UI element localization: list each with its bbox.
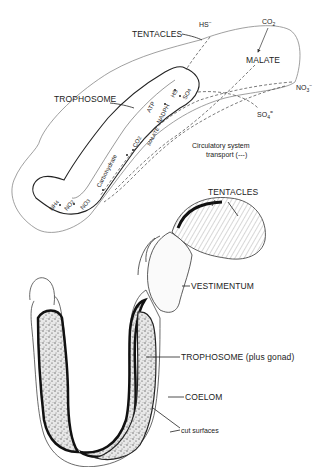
label-nadph: NADPH — [156, 103, 171, 124]
trunk-left-stub — [30, 278, 55, 305]
label-malate-top: MALATE — [246, 55, 280, 65]
circulatory-path-so4 — [198, 92, 258, 108]
label-so4-right: SO4= — [257, 109, 273, 120]
tentacles-leader-line — [182, 34, 202, 40]
circulatory-path-no3 — [100, 82, 292, 196]
label-no2: NO2 — [63, 199, 75, 212]
label-trophosome-top: TROPHOSOME — [54, 94, 117, 104]
trophosome-right-core — [96, 312, 156, 460]
label-circulatory-line2: transport (---) — [206, 151, 247, 159]
label-tentacles-bottom: TENTACLES — [208, 187, 259, 197]
svg-text:NO3−: NO3− — [296, 82, 312, 93]
label-trophosome-gonad: TROPHOSOME (plus gonad) — [181, 352, 294, 362]
tubeworm-anatomy-figure: TENTACLES HS− CO2 MALATE NO3− SO4= TROPH… — [0, 0, 326, 467]
cut-surfaces-leader — [153, 408, 180, 432]
svg-text:HS−: HS− — [199, 19, 212, 28]
co2-to-malate-arrow — [258, 28, 268, 52]
svg-text:SO4=: SO4= — [257, 109, 273, 120]
svg-text:SO4: SO4 — [182, 87, 193, 100]
label-hs-top: HS− — [199, 19, 212, 28]
label-malate-inner: MALATE — [146, 126, 161, 147]
label-nh4: NH4 — [48, 199, 60, 212]
label-tentacles-top: TENTACLES — [132, 29, 183, 39]
svg-text:NO2: NO2 — [63, 199, 75, 212]
vestimentum-body — [148, 232, 193, 312]
label-circulatory-line1: Circulatory system — [192, 142, 250, 150]
label-cut-surfaces: cut surfaces — [181, 427, 219, 434]
circulatory-path-malate — [115, 65, 255, 190]
circulatory-path-hs — [186, 37, 210, 70]
label-no3-right: NO3− — [296, 82, 312, 93]
schematic-diagram: TENTACLES HS− CO2 MALATE NO3− SO4= TROPH… — [12, 18, 312, 232]
label-coelom: COELOM — [185, 392, 222, 402]
label-so4-inner: SO4 — [182, 87, 193, 100]
label-vestimentum: VESTIMENTUM — [191, 281, 254, 291]
label-carbohydrate: Carbohydrate — [96, 153, 119, 189]
svg-text:NH4: NH4 — [48, 199, 60, 212]
